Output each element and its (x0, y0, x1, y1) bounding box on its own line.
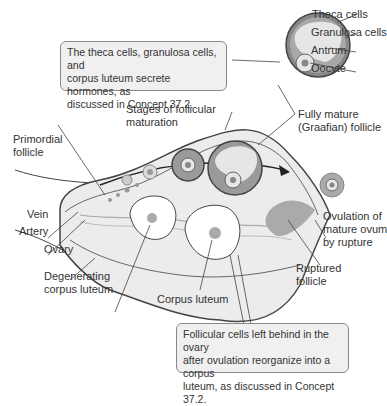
label-line: Primordial (13, 133, 63, 146)
label-line: corpus luteum (44, 283, 113, 296)
growing-follicle (122, 175, 132, 185)
callout-line: corpus luteum secrete hormones, as (67, 72, 220, 98)
primordial-follicle (108, 198, 112, 202)
label-graafian-follicle: Fully mature (Graafian) follicle (298, 108, 381, 134)
label-line: (Graafian) follicle (298, 121, 381, 134)
label-line: Fully mature (298, 108, 381, 121)
label-line: Ovulation of (323, 210, 387, 223)
label-primordial-follicle: Primordial follicle (13, 133, 63, 159)
oocyte-dot (185, 162, 191, 168)
label-vein: Vein (27, 208, 48, 221)
corpus-center (209, 227, 221, 239)
corpus-center (147, 213, 157, 223)
label-line: by rupture (323, 236, 387, 249)
corpus-luteum-callout: Follicular cells left behind in the ovar… (176, 323, 349, 373)
label-line: mature ovum (323, 223, 387, 236)
callout-line: after ovulation reorganize into a corpus (183, 354, 342, 380)
oocyte-dot (230, 177, 236, 183)
label-granulosa-cells: Granulosa cells (311, 26, 387, 39)
label-artery: Artery (19, 225, 48, 238)
label-ovary: Ovary (44, 243, 73, 256)
label-line: follicle (13, 146, 63, 159)
oocyte-dot (147, 169, 153, 175)
primordial-follicle (125, 188, 130, 193)
callout-line: Follicular cells left behind in the ovar… (183, 328, 342, 354)
primordial-follicle (135, 183, 139, 187)
label-line: follicle (296, 275, 341, 288)
callout-line: The theca cells, granulosa cells, and (67, 46, 220, 72)
label-corpus-luteum: Corpus luteum (157, 293, 229, 306)
label-line: maturation (126, 116, 216, 129)
primordial-follicle (116, 193, 120, 197)
label-stages: Stages of follicular maturation (126, 103, 216, 129)
label-antrum: Antrum (311, 44, 346, 57)
oocyte-dot (302, 60, 309, 67)
label-theca-cells: Theca cells (312, 8, 368, 21)
label-degenerating-corpus-luteum: Degenerating corpus luteum (44, 270, 113, 296)
label-line: Stages of follicular (126, 103, 216, 116)
label-ruptured-follicle: Ruptured follicle (296, 262, 341, 288)
label-oocyte: Oocyte (311, 62, 346, 75)
callout-line: luteum, as discussed in Concept 37.2. (183, 380, 342, 406)
label-line: Ruptured (296, 262, 341, 275)
oocyte-dot (330, 183, 335, 188)
label-ovulation: Ovulation of mature ovum by rupture (323, 210, 387, 249)
label-line: Degenerating (44, 270, 113, 283)
hormone-callout: The theca cells, granulosa cells, and co… (60, 41, 227, 91)
